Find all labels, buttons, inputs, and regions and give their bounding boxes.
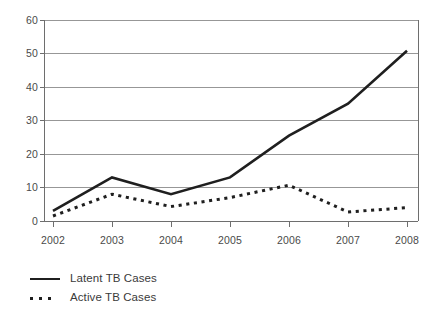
- x-tick-label-2002: 2002: [31, 235, 75, 246]
- x-tick-label-2007: 2007: [326, 235, 370, 246]
- dotted-line-key-icon: [30, 292, 64, 304]
- x-tick-label-2003: 2003: [90, 235, 134, 246]
- x-tick-label-2005: 2005: [208, 235, 252, 246]
- x-tick-label-2006: 2006: [267, 235, 311, 246]
- legend-label-latent-tb-cases: Latent TB Cases: [64, 272, 157, 285]
- chart-legend: Latent TB Cases Active TB Cases: [30, 269, 290, 307]
- legend-item-latent-tb-cases: Latent TB Cases: [30, 269, 290, 288]
- x-tick-label-2008: 2008: [385, 235, 429, 246]
- x-axis-labels: 2002 2003 2004 2005 2006 2007 2008: [0, 0, 439, 311]
- solid-line-key-icon: [30, 273, 64, 285]
- legend-label-active-tb-cases: Active TB Cases: [64, 291, 156, 304]
- legend-item-active-tb-cases: Active TB Cases: [30, 288, 290, 307]
- x-tick-label-2004: 2004: [149, 235, 193, 246]
- tb-cases-line-chart: 60 50 40 30 20 10 0 2002 2003 2004 2005 …: [0, 0, 439, 311]
